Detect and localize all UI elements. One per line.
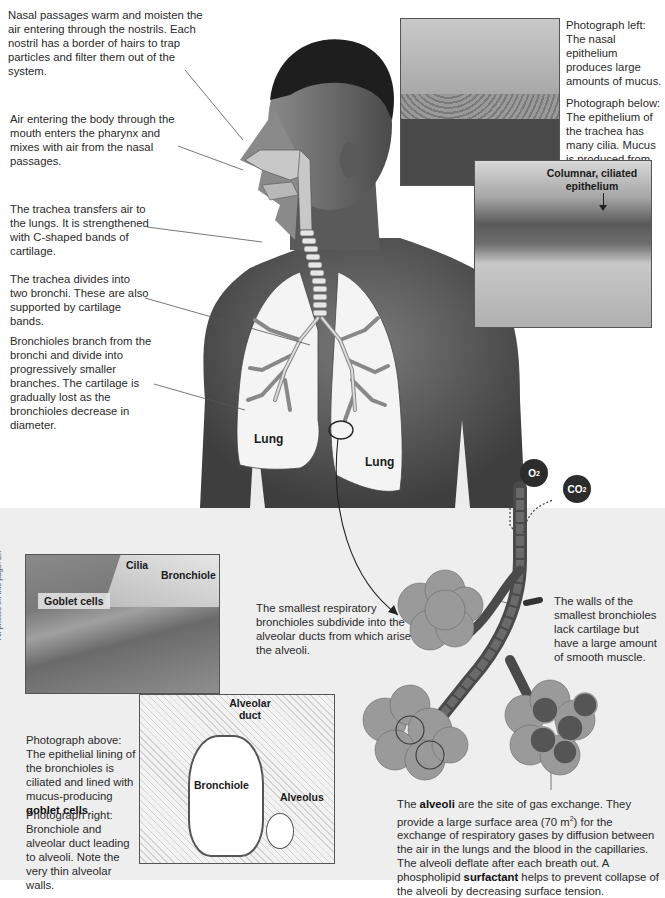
label-columnar-ciliated-epithelium: Columnar, ciliated epithelium [537,167,647,193]
callout-bronchi: The trachea divides into two bronchi. Th… [10,272,150,328]
caption-photo-right: Photograph right: Bronchiole and alveola… [26,808,138,892]
label-bronchiole-section: Bronchiole [194,779,249,791]
trachea-epithelium-photo: Columnar, ciliated epithelium [474,160,652,328]
photo-credit: All photos on this page: EII [0,551,3,640]
oxygen-bubble: O2 [520,459,548,487]
callout-trachea: The trachea transfers air to the lungs. … [10,202,162,258]
pointer-arrow-icon [599,205,607,211]
callout-bronchiole-walls: The walls of the smallest bronchioles la… [554,594,664,664]
bronchiole-goblet-photo: Cilia Bronchiole Goblet cells [25,554,220,694]
callout-nasal-passages: Nasal passages warm and moisten the air … [8,8,208,78]
callout-mouth: Air entering the body through the mouth … [10,112,182,168]
pharynx [298,150,312,230]
caption-photo-above: Photograph above: The epithelial lining … [26,733,138,817]
alveolar-duct-photo: Alveolar duct Bronchiole Alveolus [139,694,335,864]
label-goblet-cells: Goblet cells [38,593,110,609]
callout-bronchioles: Bronchioles branch from the bronchi and … [10,334,158,432]
callout-smallest-bronchioles: The smallest respiratory bronchioles sub… [256,601,416,657]
callout-alveoli-gas-exchange: The alveoli are the site of gas exchange… [397,798,662,898]
label-alveolus: Alveolus [280,791,324,803]
label-cilia: Cilia [126,559,148,571]
lung-label-left: Lung [254,432,283,446]
lung-label-right: Lung [365,455,394,469]
carbon-dioxide-bubble: CO2 [563,475,591,503]
caption-nasal-photo: Photograph left: The nasal epithelium pr… [566,18,662,88]
label-alveolar-duct: Alveolar duct [228,697,272,721]
label-bronchiole: Bronchiole [161,569,216,581]
